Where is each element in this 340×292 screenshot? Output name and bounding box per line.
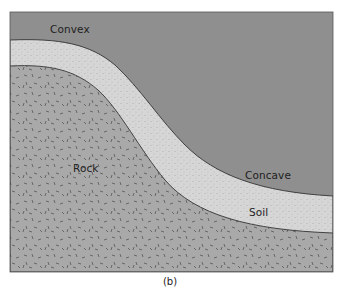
- label-concave: Concave: [245, 169, 291, 181]
- figure-caption: (b): [0, 276, 340, 287]
- label-soil: Soil: [249, 206, 268, 218]
- hillslope-diagram: [0, 0, 340, 292]
- label-convex: Convex: [50, 23, 90, 35]
- label-rock: Rock: [73, 162, 99, 174]
